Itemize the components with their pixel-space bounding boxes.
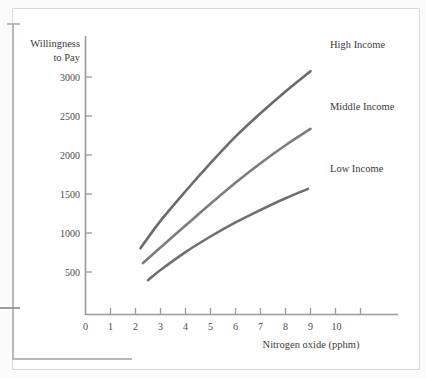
- y-axis-ticks: [86, 77, 93, 272]
- x-axis-title: Nitrogen oxide (pphm): [263, 339, 360, 351]
- x-tick-label-1: 1: [108, 321, 113, 332]
- x-tick-label-0: 0: [83, 321, 88, 332]
- y-tick-label-2500: 2500: [60, 111, 80, 122]
- chart-svg: 500 1000 1500 2000 2500 3000 Willingness…: [0, 0, 426, 378]
- series-label-low-income: Low Income: [330, 163, 384, 174]
- x-tick-label-4: 4: [183, 321, 188, 332]
- x-tick-label-2: 2: [133, 321, 138, 332]
- x-axis-ticks: [111, 308, 361, 315]
- curve-middle-income: [143, 129, 311, 263]
- y-tick-label-500: 500: [65, 267, 80, 278]
- x-tick-label-5: 5: [208, 321, 213, 332]
- series-label-high-income: High Income: [330, 39, 385, 50]
- x-tick-label-6: 6: [233, 321, 238, 332]
- x-tick-label-8: 8: [283, 321, 288, 332]
- curve-high-income: [141, 71, 311, 248]
- curve-low-income: [148, 189, 308, 280]
- x-tick-label-7: 7: [258, 321, 263, 332]
- y-axis-title-line2: to Pay: [53, 52, 80, 63]
- y-tick-label-1000: 1000: [60, 228, 80, 239]
- x-tick-label-9: 9: [308, 321, 313, 332]
- series-label-middle-income: Middle Income: [330, 101, 395, 112]
- y-tick-label-3000: 3000: [60, 72, 80, 83]
- y-tick-label-2000: 2000: [60, 150, 80, 161]
- y-axis-title-line1: Willingness: [30, 38, 80, 49]
- x-tick-label-10: 10: [332, 321, 342, 332]
- willingness-to-pay-chart: 500 1000 1500 2000 2500 3000 Willingness…: [0, 0, 426, 378]
- y-tick-label-1500: 1500: [60, 189, 80, 200]
- x-tick-label-3: 3: [158, 321, 163, 332]
